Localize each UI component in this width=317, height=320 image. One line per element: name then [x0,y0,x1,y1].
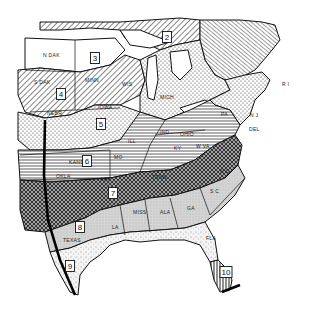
zone-number: 8 [78,223,83,232]
state-label: GA [187,205,195,211]
zone-number: 5 [99,120,104,129]
state-label: MINN [85,77,99,83]
state-label: N J [250,112,259,118]
state-label: MO [114,154,123,160]
state-label: ILL [128,138,136,144]
state-label: WIS [122,81,133,87]
state-label: ARK [100,176,112,182]
state-label: KY [174,145,182,151]
zone-number: 9 [68,262,73,271]
zone-marker: 7 [109,188,118,199]
state-label: FLA [206,235,216,241]
state-label: PA [221,111,228,117]
state-label: S DAK [34,79,51,85]
zone-marker: 3 [91,53,100,64]
zone-marker: 8 [76,222,85,233]
state-label: W VA [196,143,210,149]
state-label: IOWA [98,104,113,110]
state-label: TEXAS [63,237,81,243]
zone-marker: 6 [83,156,92,167]
state-label: ALA [160,209,171,215]
state-label: IND [160,129,170,135]
state-label: N DAK [43,52,60,58]
zone-number: 6 [85,157,90,166]
state-label: OHIO [180,131,194,137]
zone-marker: 4 [57,89,66,100]
state-label: LA [112,224,119,230]
state-label: MISS [133,209,147,215]
zone-number: 4 [59,90,64,99]
zone-number: 2 [165,33,170,42]
zone-marker: 2 [163,32,172,43]
state-label: KANS [69,159,84,165]
state-label: TENN [152,174,167,180]
state-label: N C [220,168,230,174]
state-label: S C [210,188,219,194]
zone-number: 7 [111,189,116,198]
state-label: R I [282,81,289,87]
zone-marker: 10 [220,267,232,278]
zone-marker: 5 [97,119,106,130]
zone-marker: 9 [66,261,75,272]
zone-map: N DAKS DAKMINNWISIOWANEBRMICHILLINDOHIOP… [0,0,317,320]
zone-number: 3 [93,54,98,63]
state-label: MICH [160,94,174,100]
state-label: OKLA [56,173,71,179]
state-label: DEL [249,126,260,132]
zone-number: 10 [222,268,231,277]
state-label: NEBR [47,110,62,116]
